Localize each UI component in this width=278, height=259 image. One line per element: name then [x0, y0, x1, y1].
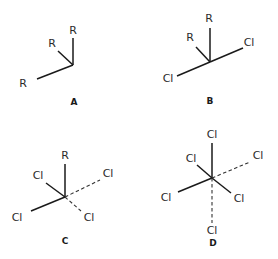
panel-label: A	[71, 97, 78, 107]
structure-d: ClClClClClClD	[161, 128, 264, 248]
structure-b: RRClClB	[163, 12, 255, 106]
atom-label-r: R	[19, 77, 27, 90]
atom-label-r: R	[61, 149, 69, 162]
atom-label-cl: Cl	[33, 169, 44, 182]
atom-label-cl: Cl	[253, 149, 264, 162]
solid-bond	[31, 197, 65, 211]
diagram-canvas: RRRARRClClBRClClClClCClClClClClClD	[0, 0, 278, 259]
atom-label-cl: Cl	[12, 211, 23, 224]
structure-a: RRRA	[19, 24, 77, 107]
structure-c: RClClClClC	[12, 149, 114, 246]
atom-label-cl: Cl	[161, 191, 172, 204]
atom-label-cl: Cl	[103, 167, 114, 180]
solid-bond	[196, 47, 210, 62]
atom-label-cl: Cl	[84, 211, 95, 224]
dashed-bond	[212, 162, 250, 178]
dashed-bond	[65, 180, 100, 197]
solid-bond	[197, 165, 212, 178]
atom-label-cl: Cl	[163, 72, 174, 85]
atom-label-r: R	[48, 37, 56, 50]
solid-bond	[178, 178, 212, 192]
solid-bond	[210, 48, 243, 62]
dashed-bond	[65, 197, 81, 211]
atom-label-cl: Cl	[186, 152, 197, 165]
solid-bond	[58, 51, 73, 65]
chemical-structures-diagram: RRRARRClClBRClClClClCClClClClClClD	[0, 0, 278, 259]
panel-label: D	[209, 238, 216, 248]
atom-label-cl: Cl	[244, 36, 255, 49]
solid-bond	[46, 183, 65, 197]
atom-label-r: R	[69, 24, 77, 37]
atom-label-r: R	[205, 12, 213, 25]
solid-bond	[37, 65, 73, 79]
panel-label: B	[207, 96, 214, 106]
atom-label-cl: Cl	[207, 128, 218, 141]
solid-bond	[177, 62, 210, 76]
atom-label-cl: Cl	[207, 224, 218, 237]
atom-label-r: R	[186, 31, 194, 44]
solid-bond	[212, 178, 231, 193]
panel-label: C	[62, 236, 69, 246]
atom-label-cl: Cl	[234, 192, 245, 205]
